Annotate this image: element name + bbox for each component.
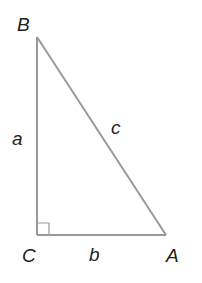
right-angle-marker-icon [37,223,49,235]
side-c-line [37,37,166,235]
vertex-label-b: B [17,14,30,35]
vertex-label-c: C [22,245,36,266]
side-label-c: c [111,117,121,138]
side-label-b: b [89,244,100,265]
side-label-a: a [12,128,23,149]
right-triangle-diagram: B C A a b c [0,0,202,283]
vertex-label-a: A [165,245,179,266]
